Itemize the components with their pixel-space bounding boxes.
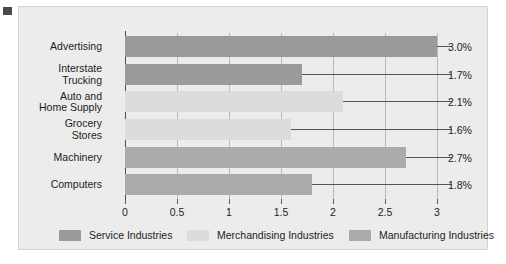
bar-row	[125, 33, 437, 61]
category-label: Auto and Home Supply	[19, 91, 102, 114]
category-label: Computers	[19, 179, 102, 191]
bar-row	[125, 144, 437, 172]
value-label: 2.1%	[448, 96, 472, 108]
x-tick-label: 0.5	[157, 206, 197, 218]
x-tick-label: 2	[313, 206, 353, 218]
category-label: Grocery Stores	[19, 118, 102, 141]
x-tick-label: 1	[209, 206, 249, 218]
value-leader-line	[312, 184, 452, 185]
x-tick	[385, 199, 386, 204]
bar	[125, 64, 302, 85]
x-tick-label: 3	[417, 206, 457, 218]
legend-swatch-icon	[349, 230, 371, 241]
bar-row	[125, 171, 437, 199]
bar	[125, 147, 406, 168]
chart-legend: Service IndustriesMerchandising Industri…	[19, 229, 489, 249]
category-label: Interstate Trucking	[19, 63, 102, 86]
category-label: Advertising	[19, 41, 102, 53]
plot-bars	[125, 33, 437, 199]
bar-row	[125, 61, 437, 89]
value-label: 1.8%	[448, 179, 472, 191]
bar-row	[125, 116, 437, 144]
bar	[125, 119, 291, 140]
legend-swatch-icon	[59, 230, 81, 241]
x-tick	[281, 199, 282, 204]
legend-label: Manufacturing Industries	[379, 229, 494, 241]
x-tick-label: 1.5	[261, 206, 301, 218]
value-label: 2.7%	[448, 152, 472, 164]
bar	[125, 36, 437, 57]
legend-item-service[interactable]: Service Industries	[59, 229, 172, 241]
bar	[125, 174, 312, 195]
value-leader-line	[291, 129, 452, 130]
gridline	[437, 33, 438, 199]
x-tick	[229, 199, 230, 204]
value-label: 1.7%	[448, 69, 472, 81]
value-label: 1.6%	[448, 124, 472, 136]
corner-marker-icon	[3, 7, 12, 15]
chart-panel: AdvertisingInterstate TruckingAuto and H…	[18, 6, 488, 250]
chart-figure: AdvertisingInterstate TruckingAuto and H…	[0, 0, 506, 264]
legend-label: Merchandising Industries	[217, 229, 334, 241]
bar-row	[125, 88, 437, 116]
x-tick	[333, 199, 334, 204]
legend-item-manu[interactable]: Manufacturing Industries	[349, 229, 494, 241]
value-leader-line	[406, 157, 452, 158]
value-leader-line	[343, 101, 452, 102]
bar	[125, 91, 343, 112]
value-leader-line	[302, 74, 452, 75]
x-tick	[125, 199, 126, 204]
value-label: 3.0%	[448, 41, 472, 53]
legend-item-merch[interactable]: Merchandising Industries	[187, 229, 334, 241]
x-tick-label: 2.5	[365, 206, 405, 218]
legend-swatch-icon	[187, 230, 209, 241]
legend-label: Service Industries	[89, 229, 172, 241]
x-tick	[437, 199, 438, 204]
category-label: Machinery	[19, 152, 102, 164]
x-tick	[177, 199, 178, 204]
x-tick-label: 0	[105, 206, 145, 218]
